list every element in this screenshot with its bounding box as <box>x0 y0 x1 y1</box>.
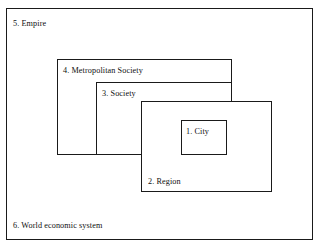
label-city: 1. City <box>186 128 209 136</box>
label-empire: 5. Empire <box>13 20 46 28</box>
label-society: 3. Society <box>102 90 136 98</box>
label-metropolitan-society: 4. Metropolitan Society <box>63 67 143 75</box>
label-world-economic-system: 6. World economic system <box>13 222 102 230</box>
box-city <box>181 120 227 155</box>
label-region: 2. Region <box>148 178 181 186</box>
diagram-canvas: 5. Empire 4. Metropolitan Society 3. Soc… <box>0 0 320 248</box>
